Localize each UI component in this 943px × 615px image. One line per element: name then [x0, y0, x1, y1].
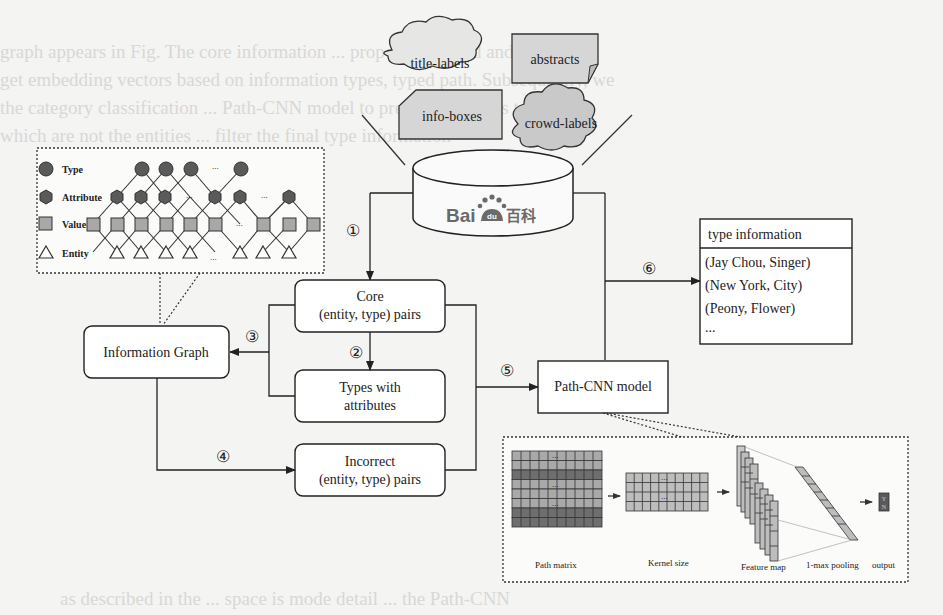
- svg-text:...: ...: [186, 190, 193, 200]
- incorrect-pairs-node[interactable]: Incorrect (entity, type) pairs: [295, 444, 445, 496]
- legend-attribute-icon: [40, 190, 52, 204]
- type-information-table: type information (Jay Chou, Singer) (New…: [700, 219, 852, 344]
- core-pairs-node[interactable]: Core (entity, type) pairs: [295, 280, 445, 332]
- diagram-canvas: graph appears in Fig. The core informati…: [0, 0, 943, 615]
- svg-text:du: du: [487, 212, 497, 221]
- path-cnn-model-node[interactable]: Path-CNN model: [538, 361, 668, 413]
- step-3-label: ③: [245, 328, 259, 345]
- svg-text:Information Graph: Information Graph: [103, 345, 208, 360]
- connector-core-incorrect: [445, 305, 476, 470]
- path-matrix-label: Path matrix: [535, 560, 577, 570]
- type-info-row: (New York, City): [705, 278, 803, 294]
- type-information-header: type information: [708, 227, 802, 242]
- legend-value-icon: [39, 217, 52, 230]
- path-matrix: [512, 451, 602, 527]
- connector-core-types: [269, 305, 295, 396]
- pooling-label: 1-max pooling: [806, 560, 859, 570]
- legend-type-label: Type: [62, 164, 83, 175]
- legend-type-icon: [39, 162, 53, 176]
- svg-text:info-boxes: info-boxes: [422, 109, 482, 124]
- svg-text:...: ...: [661, 472, 668, 482]
- information-graph-node[interactable]: Information Graph: [84, 326, 229, 378]
- kernel-size-label: Kernel size: [648, 558, 689, 568]
- svg-text:百科: 百科: [506, 207, 536, 225]
- svg-text:...: ...: [210, 252, 217, 262]
- information-graph-detail: Type Attribute Value Entity ... ... ...: [37, 148, 324, 273]
- source-title-labels: title-labels: [384, 16, 482, 71]
- step-5-label: ⑤: [500, 362, 514, 379]
- legend-entity-label: Entity: [62, 248, 89, 259]
- svg-text:attributes: attributes: [344, 398, 396, 413]
- svg-text:(entity, type) pairs: (entity, type) pairs: [319, 472, 421, 488]
- svg-text:...: ...: [236, 218, 243, 228]
- svg-text:title-labels: title-labels: [410, 56, 469, 71]
- leader-cnn-right: [606, 413, 740, 437]
- step-1-label: ①: [346, 222, 360, 239]
- svg-text:...: ...: [661, 491, 668, 501]
- svg-text:Path-CNN model: Path-CNN model: [554, 379, 652, 394]
- svg-text:...: ...: [212, 161, 219, 171]
- source-info-boxes: info-boxes: [399, 90, 502, 139]
- baidu-baike-database: Bai du 百科: [413, 150, 573, 236]
- type-info-row: (Jay Chou, Singer): [705, 255, 811, 271]
- step-2-label: ②: [349, 344, 363, 361]
- svg-text:Bai: Bai: [446, 205, 476, 226]
- svg-text:Incorrect: Incorrect: [345, 454, 396, 469]
- type-info-row: ...: [705, 320, 716, 335]
- type-info-row: (Peony, Flower): [705, 301, 795, 317]
- source-abstracts: abstracts: [512, 34, 598, 83]
- source-crowd-labels: crowd-labels: [512, 84, 597, 150]
- legend-value-label: Value: [62, 219, 87, 230]
- feature-map-label: Feature map: [741, 562, 786, 572]
- svg-text:Types with: Types with: [339, 380, 401, 395]
- types-with-attributes-node[interactable]: Types with attributes: [295, 370, 445, 422]
- legend-attribute-label: Attribute: [62, 192, 103, 203]
- svg-text:Core: Core: [356, 289, 383, 304]
- svg-text:...: ...: [552, 479, 559, 489]
- output-vector: Y N: [879, 493, 889, 511]
- leader-graph-right: [163, 273, 200, 325]
- svg-text:crowd-labels: crowd-labels: [525, 116, 597, 131]
- svg-text:abstracts: abstracts: [531, 52, 580, 67]
- svg-text:N: N: [882, 504, 887, 510]
- svg-text:...: ...: [552, 450, 559, 460]
- svg-text:(entity, type) pairs: (entity, type) pairs: [319, 307, 421, 323]
- svg-text:which are not the entities ...: which are not the entities ... filter th…: [0, 125, 452, 146]
- step-6-label: ⑥: [642, 260, 656, 277]
- output-label: output: [872, 560, 896, 570]
- path-cnn-detail: ... ... ... ... ...: [503, 437, 908, 582]
- svg-text:Y: Y: [882, 496, 887, 502]
- svg-text:as described in the ... space: as described in the ... space is mode de…: [60, 588, 510, 609]
- step-4-label: ④: [216, 448, 230, 465]
- svg-text:...: ...: [261, 190, 268, 200]
- svg-text:...: ...: [552, 498, 559, 508]
